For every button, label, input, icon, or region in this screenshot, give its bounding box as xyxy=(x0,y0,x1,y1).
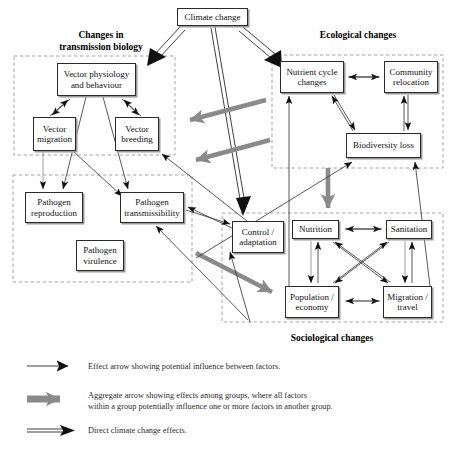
node-control-adaptation[interactable]: Control /adaptation xyxy=(232,221,284,253)
legend-label-aggregate-arrow: Aggregate arrow showing effects among gr… xyxy=(88,390,438,412)
arrow-physiology-to-breeding xyxy=(122,99,139,115)
node-pathogen-reproduction[interactable]: Pathogenreproduction xyxy=(25,192,83,223)
node-nutrition[interactable]: Nutrition xyxy=(292,220,339,239)
diagram-canvas: Changes intransmission biology Ecologica… xyxy=(0,0,454,449)
legend-direct-arrow-glyph xyxy=(27,425,75,436)
arrow-transmissibility-to-control xyxy=(186,210,230,224)
group-label-ecological: Ecological changes xyxy=(288,30,428,42)
aggregate-arrow-pathogen-to-socio xyxy=(196,253,272,292)
legend-label-effect-arrow: Effect arrow showing potential influence… xyxy=(88,361,418,372)
node-nutrient-cycle-changes[interactable]: Nutrient cyclechanges xyxy=(280,61,344,93)
effect-arrows xyxy=(43,77,430,322)
legend-glyphs xyxy=(27,366,75,436)
node-migration-travel[interactable]: Migration /travel xyxy=(383,286,432,318)
node-sanitation[interactable]: Sanitation xyxy=(386,220,432,239)
node-vector-breeding[interactable]: Vectorbreeding xyxy=(115,117,159,151)
arrow-breeding-to-physiology xyxy=(124,100,141,116)
node-population-economy[interactable]: Population /economy xyxy=(285,286,339,318)
node-community-relocation[interactable]: Communityrelocation xyxy=(384,61,438,93)
node-vector-migration[interactable]: Vectormigration xyxy=(33,117,76,151)
aggregate-arrows xyxy=(190,100,328,292)
arrow-biodiversity-to-nutrient xyxy=(332,96,353,131)
node-pathogen-virulence[interactable]: Pathogenvirulence xyxy=(76,240,124,271)
group-label-transmission-biology: Changes intransmission biology xyxy=(32,30,170,53)
arrow-physiology-to-migration xyxy=(52,99,70,115)
node-pathogen-transmissibility[interactable]: Pathogentransmissibility xyxy=(120,192,184,223)
arrow-nutrient-to-biodiversity xyxy=(334,95,355,130)
group-label-sociological: Sociological changes xyxy=(262,333,402,345)
arrow-migration-to-physiology xyxy=(50,100,68,116)
direct-arrow-to-ecological xyxy=(239,27,282,68)
node-vector-physiology-and-behaviour[interactable]: Vector physiologyand behaviour xyxy=(57,63,136,96)
direct-climate-effect-arrows xyxy=(147,27,282,216)
arrow-migration-to-transmissibility xyxy=(74,152,122,196)
legend-label-direct-arrow: Direct climate change effects. xyxy=(88,425,418,436)
node-climate-change[interactable]: Climate change xyxy=(177,8,248,26)
node-biodiversity-loss[interactable]: Biodiversity loss xyxy=(346,133,421,158)
direct-arrow-to-sociological xyxy=(211,27,251,216)
